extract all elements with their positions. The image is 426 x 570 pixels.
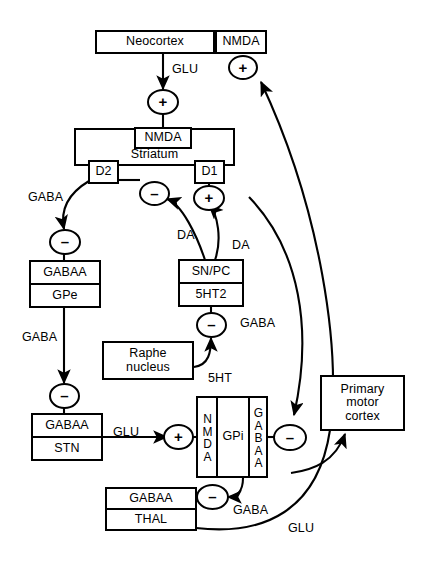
node-minus-d2-d1[interactable]: – (139, 181, 170, 206)
neocortex-label: Neocortex (126, 35, 184, 49)
raphe-line1: Raphe (129, 347, 166, 361)
gpi-left-receptor: NMDA (198, 398, 218, 476)
box-d2[interactable]: D2 (88, 160, 119, 184)
node-minus-snpc[interactable]: – (196, 312, 227, 338)
label-gaba-gpe: GABA (22, 330, 57, 344)
node-plus-striatum[interactable]: + (147, 89, 179, 115)
wire-d2-to-gpe-minus (63, 181, 89, 229)
label-da-right: DA (232, 238, 250, 252)
snpc-receptor: 5HT2 (180, 284, 242, 305)
label-gaba-snpc: GABA (240, 316, 275, 330)
gpe-receptor-label: GABAA (43, 266, 87, 280)
minus-sign: – (150, 186, 158, 201)
minus-sign: – (208, 489, 216, 504)
d2-label: D2 (95, 165, 111, 179)
node-minus-thal[interactable]: – (196, 484, 229, 510)
gpi-center-region: GPi (218, 398, 248, 476)
label-glu-stn: GLU (113, 425, 139, 439)
motor-cortex-line2: motor (346, 396, 378, 410)
minus-sign: – (60, 388, 68, 403)
box-gpe[interactable]: GABAA GPe (29, 260, 101, 308)
gpe-region: GPe (31, 285, 99, 306)
node-minus-gpe[interactable]: – (49, 229, 81, 255)
snpc-region-label: SN/PC (192, 265, 231, 279)
plus-sign: + (205, 190, 214, 205)
box-neocortex[interactable]: Neocortex (95, 30, 215, 54)
box-d1[interactable]: D1 (194, 160, 225, 184)
stn-region: STN (33, 438, 101, 459)
striatum-label: Striatum (131, 148, 178, 162)
nmda-top-label: NMDA (222, 35, 259, 49)
wire-raphe-to-minus-5ht (194, 338, 211, 367)
box-thal[interactable]: GABAA THAL (105, 487, 197, 531)
snpc-receptor-label: 5HT2 (196, 288, 227, 302)
box-nmda-striatum[interactable]: NMDA (134, 127, 192, 149)
thal-region-label: THAL (135, 513, 167, 527)
thal-receptor-label: GABAA (129, 492, 173, 506)
minus-sign: – (207, 317, 215, 332)
stn-receptor: GABAA (33, 415, 101, 438)
raphe-line2: nucleus (126, 361, 170, 375)
plus-sign: + (159, 94, 168, 109)
gpe-region-label: GPe (52, 289, 77, 303)
motor-cortex-line3: cortex (345, 410, 380, 424)
wire-cortex-to-gpi-minus (249, 197, 302, 415)
label-glu-thal: GLU (288, 521, 314, 535)
motor-cortex-line1: Primary (341, 383, 385, 397)
box-gpi[interactable]: NMDA GPi GABAA (196, 396, 268, 478)
wire-snpc-to-plus-da (209, 205, 219, 260)
thal-receptor: GABAA (107, 489, 195, 510)
stn-region-label: STN (54, 442, 79, 456)
diagram-canvas: Neocortex NMDA Striatum NMDA D2 D1 GABAA… (0, 0, 426, 570)
thal-region: THAL (107, 510, 195, 529)
gpi-right-receptor: GABAA (248, 398, 266, 476)
minus-sign: – (61, 234, 69, 249)
label-da-left: DA (177, 228, 195, 242)
label-5ht-raphe: 5HT (208, 371, 232, 385)
label-gaba-thal: GABA (233, 503, 268, 517)
gpe-receptor: GABAA (31, 262, 99, 285)
node-plus-gpi[interactable]: + (163, 424, 194, 450)
label-glu-cortex: GLU (172, 62, 198, 76)
plus-sign: + (239, 60, 248, 75)
box-stn[interactable]: GABAA STN (31, 413, 103, 461)
minus-sign: – (286, 430, 294, 445)
snpc-region: SN/PC (180, 261, 242, 284)
plus-sign: + (174, 429, 183, 444)
label-gaba-d2: GABA (28, 190, 63, 204)
gpi-left-label: NMDA (201, 412, 212, 462)
box-nmda-top[interactable]: NMDA (215, 30, 267, 54)
wire-gpi-to-thal-minus (228, 478, 243, 497)
nmda-striatum-label: NMDA (144, 131, 181, 145)
stn-receptor-label: GABAA (45, 419, 89, 433)
box-primary-motor-cortex[interactable]: Primary motor cortex (320, 375, 405, 431)
box-snpc[interactable]: SN/PC 5HT2 (178, 259, 244, 307)
node-minus-gpi-out[interactable]: – (273, 424, 307, 451)
node-plus-nmda-top[interactable]: + (228, 55, 258, 80)
gpi-center-label: GPi (222, 430, 243, 444)
box-raphe-nucleus[interactable]: Raphe nucleus (102, 341, 194, 380)
node-plus-d1[interactable]: + (193, 185, 225, 211)
node-minus-stn[interactable]: – (49, 383, 80, 409)
d1-label: D1 (201, 165, 217, 179)
gpi-right-label: GABAA (252, 406, 263, 469)
